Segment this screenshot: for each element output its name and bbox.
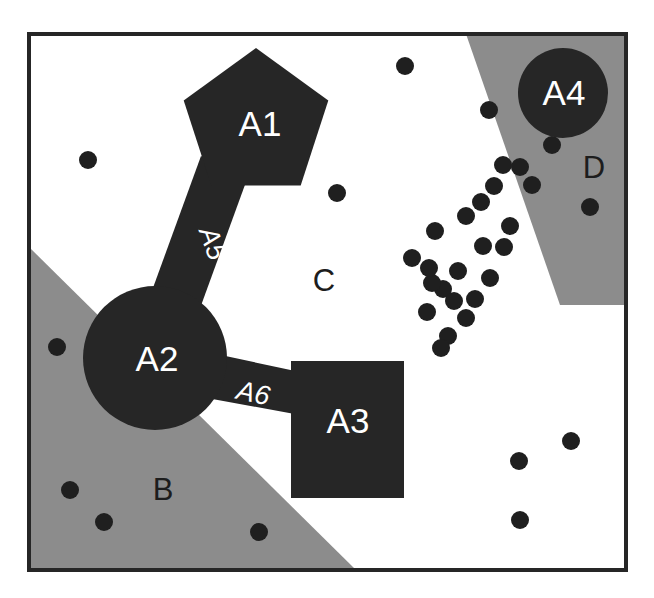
scatter-point [501,217,519,235]
entity-label-A3: A3 [327,401,370,440]
region-label-D: D [583,150,605,185]
scatter-point [474,237,492,255]
region-label-C: C [313,263,335,298]
scatter-point [581,198,599,216]
scatter-point [494,156,512,174]
scatter-point [418,303,436,321]
scatter-point [481,269,499,287]
scatter-point [426,222,444,240]
scatter-point [328,184,346,202]
scatter-point [420,259,438,277]
scatter-point [457,309,475,327]
region-label-B: B [153,472,174,507]
scatter-point [511,511,529,529]
scatter-point [511,158,529,176]
scatter-point [403,249,421,267]
scatter-point [79,151,97,169]
scatter-point [449,262,467,280]
scatter-point [95,513,113,531]
scatter-point [543,136,561,154]
scatter-point [466,290,484,308]
scatter-point [495,238,513,256]
spatial-region-diagram: A5 A6 A1 A2 A3 A4 B C D [0,0,654,598]
scatter-point [48,338,66,356]
scatter-point [423,274,441,292]
scatter-point [472,193,490,211]
scatter-point [457,207,475,225]
entity-label-A4: A4 [543,73,586,112]
scatter-point [432,339,450,357]
scatter-point [480,101,498,119]
scatter-point [523,176,541,194]
entity-label-A2: A2 [136,339,179,378]
scatter-point [250,523,268,541]
entity-label-A1: A1 [239,104,282,143]
figure-root: A5 A6 A1 A2 A3 A4 B C D [0,0,654,598]
scatter-point [445,292,463,310]
scatter-point [396,57,414,75]
scatter-point [485,177,503,195]
scatter-point [562,432,580,450]
scatter-point [510,452,528,470]
scatter-point [61,481,79,499]
